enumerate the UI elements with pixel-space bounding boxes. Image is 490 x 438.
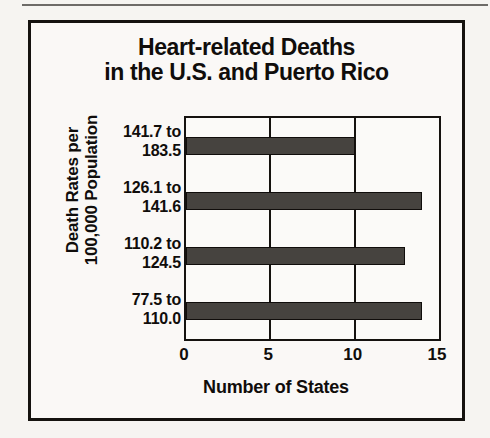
- chart-title-line-1: Heart-related Deaths: [31, 35, 462, 60]
- x-axis-title: Number of States: [91, 377, 461, 398]
- y-axis-tick-label-line: 110.0: [109, 309, 181, 328]
- x-axis-tick-label: 5: [264, 345, 273, 365]
- y-axis-tick-label-line: 183.5: [109, 141, 181, 160]
- chart-frame: Heart-related Deaths in the U.S. and Pue…: [28, 20, 465, 421]
- plot-area: [184, 116, 441, 341]
- x-axis-tick-label: 0: [179, 345, 188, 365]
- y-axis-tick-label-line: 124.5: [109, 253, 181, 272]
- y-axis-tick-label: 77.5 to 110.0: [109, 290, 181, 328]
- y-axis-tick-label-line: 77.5 to: [109, 290, 181, 309]
- y-axis-title-line-2: 100,000 Population: [82, 78, 101, 303]
- y-axis-tick-label: 110.2 to 124.5: [109, 234, 181, 272]
- y-axis-tick-label-line: 141.7 to: [109, 122, 181, 141]
- x-axis-tick-labels: 051015: [184, 345, 441, 367]
- y-axis-tick-label-line: 110.2 to: [109, 234, 181, 253]
- y-axis-title-line-1: Death Rates per: [63, 78, 82, 303]
- y-axis-tick-label: 126.1 to 141.6: [109, 178, 181, 216]
- y-axis-tick-label: 141.7 to 183.5: [109, 122, 181, 160]
- x-axis-tick-label: 10: [343, 345, 362, 365]
- y-axis-tick-label-line: 141.6: [109, 197, 181, 216]
- y-axis-title: Death Rates per 100,000 Population: [63, 78, 101, 303]
- x-axis-tick-label: 15: [428, 345, 447, 365]
- bar: [186, 302, 422, 320]
- page-top-rule: [22, 4, 488, 6]
- bar: [186, 137, 355, 155]
- y-axis-tick-label-line: 126.1 to: [109, 178, 181, 197]
- bar: [186, 247, 405, 265]
- bar: [186, 192, 422, 210]
- y-axis-tick-labels: 141.7 to 183.5 126.1 to 141.6 110.2 to 1…: [109, 116, 181, 341]
